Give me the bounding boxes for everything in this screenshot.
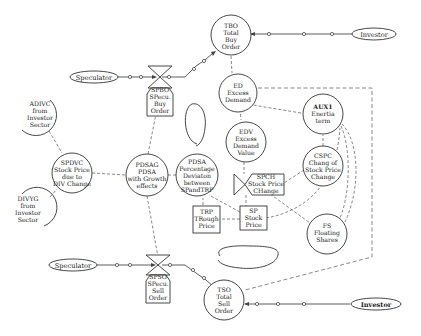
node-spdvc[interactable]: SPDVC Stock Price due to DIV Change — [52, 153, 92, 193]
node-ed-line2: Excess — [227, 89, 248, 96]
node-sp[interactable]: SP Stock Price — [240, 206, 267, 230]
node-adivc-line3: Investor — [27, 114, 53, 121]
node-pdsag-line4: effects — [137, 182, 158, 189]
node-adivc-line4: Sector — [30, 121, 51, 128]
node-aux1[interactable]: AUX1 Enertia term — [303, 94, 343, 134]
node-adivc-line1: ADIVC — [28, 100, 50, 107]
node-sp-line1: SP — [249, 207, 257, 214]
node-spdvc-line2: Stock Price — [54, 166, 90, 173]
node-tso-line3: Sell — [218, 300, 230, 307]
node-sp-line2: Stock — [245, 214, 263, 221]
loop-symbol-top — [185, 104, 205, 146]
node-pdsag[interactable]: PDSAG PDSA with Growth effects — [126, 154, 168, 196]
node-cspc-line4: Change — [311, 173, 335, 181]
node-edv-line1: EDV — [239, 128, 253, 135]
node-pdsa-line3: Deviaton — [183, 172, 211, 179]
node-tbo[interactable]: TBO Total Buy Order — [211, 15, 251, 55]
node-adivc-line2: from — [33, 107, 48, 114]
node-ed[interactable]: ED Excess Demand — [219, 74, 257, 112]
node-aux1-line3: term — [316, 117, 331, 124]
node-pdsag-line3: with Growth — [127, 175, 166, 182]
node-ed-line1: ED — [233, 82, 243, 89]
node-tso[interactable]: TSO Total Sell Order — [204, 280, 244, 320]
node-tbo-line4: Order — [222, 43, 241, 50]
node-speculator-top[interactable]: Speculator — [70, 71, 118, 83]
node-spch-line1: SPCH — [257, 173, 276, 180]
node-spso-line2: SPecu. — [147, 280, 168, 287]
node-tso-line4: Order — [215, 307, 234, 314]
node-pdsa-line5: SPandTRP — [181, 186, 214, 193]
node-spdvc-line4: DIV Change — [53, 180, 91, 188]
node-tso-line1: TSO — [217, 286, 230, 293]
node-aux1-line2: Enertia — [311, 110, 335, 117]
node-aux1-line1: AUX1 — [312, 103, 332, 110]
valve-icon — [234, 174, 245, 195]
node-trp[interactable]: TRP TRough Price — [193, 206, 220, 233]
node-trp-line3: Price — [198, 222, 215, 229]
node-tso-line2: Total — [216, 293, 232, 300]
loop-symbol-bottom — [218, 246, 278, 269]
node-pdsa-line1: PDSA — [188, 158, 206, 165]
node-cspc-line1: CSPC — [314, 152, 332, 159]
node-investor-bottom-label: Investor — [361, 301, 392, 309]
node-edv[interactable]: EDV Excess Demand Value — [226, 122, 266, 162]
node-spbo-line1: SPBO — [151, 86, 169, 93]
node-pdsag-line1: PDSAG — [136, 161, 159, 168]
system-dynamics-diagram: TBO Total Buy Order Investor Speculator … — [0, 0, 421, 336]
node-cspc[interactable]: CSPC Chang of Stock Price Change — [303, 146, 343, 186]
node-edv-line4: Value — [236, 149, 255, 156]
node-spch-line2: Stock Price — [248, 180, 284, 187]
node-spso-line3: Sell — [152, 287, 164, 294]
node-cspc-line3: Stock Price — [305, 166, 341, 173]
node-spdvc-line1: SPDVC — [61, 159, 84, 166]
node-fs-line3: Shares — [316, 236, 338, 243]
node-tbo-line1: TBO — [224, 22, 238, 29]
node-divyg-line4: Sector — [18, 216, 39, 223]
node-spbo[interactable]: SPBO SPecu. Buy Order — [147, 66, 173, 116]
node-investor-bottom[interactable]: Investor — [351, 298, 401, 310]
node-edv-line3: Demand — [233, 142, 259, 149]
node-ed-line3: Demand — [225, 96, 251, 103]
node-fs[interactable]: FS Floating Shares — [307, 214, 347, 254]
node-spso[interactable]: SPSO SPecu. Sell Order — [146, 255, 170, 303]
node-spso-line4: Order — [149, 294, 168, 301]
node-adivc[interactable]: ADIVC from Investor Sector — [22, 100, 57, 136]
node-investor-top[interactable]: Investor — [352, 28, 396, 40]
node-spdvc-line3: due to — [62, 173, 82, 180]
node-pdsag-line2: PDSA — [138, 168, 156, 175]
node-divyg-line3: Investor — [15, 209, 41, 216]
node-sp-line3: Price — [245, 221, 262, 228]
node-divyg-line1: DIVYG — [18, 195, 39, 202]
node-speculator-top-label: Speculator — [76, 74, 113, 82]
node-spbo-line2: SPecu. — [149, 93, 170, 100]
node-pdsa-line4: between — [184, 179, 211, 186]
node-trp-line1: TRP — [200, 208, 213, 215]
node-speculator-bottom-label: Speculator — [55, 262, 92, 270]
node-spch[interactable]: SPCH Stock Price CHange — [234, 173, 284, 195]
node-divyg[interactable]: DIVYG from Investor Sector — [15, 187, 57, 226]
node-divyg-line2: from — [21, 202, 36, 209]
node-pdsa[interactable]: PDSA Percentage Deviaton between SPandTR… — [176, 154, 218, 196]
node-speculator-bottom[interactable]: Speculator — [49, 259, 97, 271]
node-spso-line1: SPSO — [149, 273, 167, 280]
node-spbo-line4: Order — [151, 107, 170, 114]
node-edv-line2: Excess — [235, 135, 256, 142]
node-spch-line3: CHange — [253, 187, 279, 195]
node-investor-top-label: Investor — [360, 31, 388, 39]
node-tbo-line2: Total — [223, 29, 239, 36]
node-fs-line1: FS — [323, 222, 332, 229]
